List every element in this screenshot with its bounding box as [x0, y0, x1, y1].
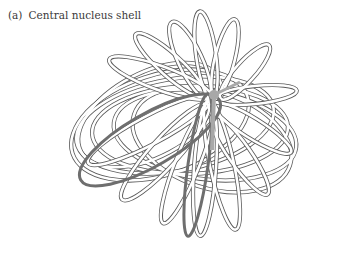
nucleus-shell-rendering — [0, 0, 356, 254]
